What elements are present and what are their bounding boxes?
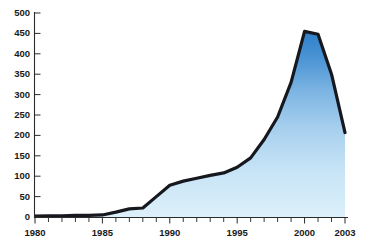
y-tick-label: 250	[14, 109, 30, 120]
x-tick-label: 1980	[24, 227, 45, 238]
x-tick-label-group: 198019851990199520002003	[24, 227, 355, 238]
y-tick-label-group: 050100150200250300350400450500	[14, 7, 30, 222]
area-chart: 050100150200250300350400450500 198019851…	[0, 0, 369, 251]
y-tick-group	[35, 13, 41, 217]
chart-canvas: 050100150200250300350400450500 198019851…	[0, 0, 369, 251]
x-tick-label: 1990	[159, 227, 180, 238]
x-tick-label: 1985	[92, 227, 114, 238]
y-tick-label: 200	[14, 129, 30, 140]
y-tick-label: 350	[14, 68, 30, 79]
x-tick-label: 1995	[227, 227, 249, 238]
plot-area	[35, 31, 345, 217]
x-tick-group	[35, 218, 345, 224]
y-tick-label: 450	[14, 27, 30, 38]
x-tick-label: 2003	[334, 227, 355, 238]
y-tick-label: 300	[14, 89, 30, 100]
x-axis: 198019851990199520002003	[24, 218, 355, 239]
y-tick-label: 0	[25, 211, 30, 222]
y-tick-label: 500	[14, 7, 30, 18]
y-tick-label: 50	[19, 191, 30, 202]
y-tick-label: 400	[14, 48, 30, 59]
y-tick-label: 100	[14, 170, 30, 181]
y-tick-label: 150	[14, 150, 30, 161]
y-axis: 050100150200250300350400450500	[14, 7, 40, 222]
x-tick-label: 2000	[294, 227, 315, 238]
